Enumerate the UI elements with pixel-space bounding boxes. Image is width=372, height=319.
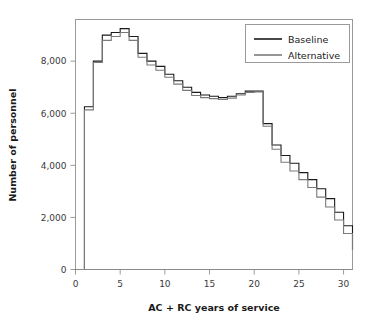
series-line-alternative bbox=[76, 33, 353, 270]
x-tick-label: 0 bbox=[73, 279, 79, 289]
y-axis-ticks: 02,0004,0006,0008,000 bbox=[41, 56, 76, 274]
x-tick-label: 15 bbox=[204, 279, 215, 289]
legend-label-alternative: Alternative bbox=[288, 50, 340, 61]
x-tick-label: 5 bbox=[117, 279, 123, 289]
y-axis-title: Number of personnel bbox=[7, 88, 18, 201]
x-tick-label: 10 bbox=[159, 279, 171, 289]
data-series-group bbox=[76, 29, 353, 270]
x-tick-label: 25 bbox=[293, 279, 304, 289]
x-tick-label: 20 bbox=[248, 279, 260, 289]
chart-figure: 02,0004,0006,0008,000 051015202530 Numbe… bbox=[0, 0, 372, 319]
legend-label-baseline: Baseline bbox=[288, 34, 328, 45]
y-tick-label: 2,000 bbox=[41, 213, 67, 223]
chart-canvas: 02,0004,0006,0008,000 051015202530 Numbe… bbox=[0, 0, 372, 319]
y-tick-label: 8,000 bbox=[41, 56, 67, 66]
x-tick-label: 30 bbox=[338, 279, 350, 289]
x-axis-ticks: 051015202530 bbox=[73, 270, 350, 289]
series-line-baseline bbox=[76, 29, 353, 270]
chart-legend: BaselineAlternative bbox=[246, 25, 350, 63]
y-tick-label: 6,000 bbox=[41, 109, 67, 119]
x-axis-title: AC + RC years of service bbox=[148, 302, 279, 313]
y-tick-label: 4,000 bbox=[41, 161, 67, 171]
y-tick-label: 0 bbox=[61, 265, 67, 275]
